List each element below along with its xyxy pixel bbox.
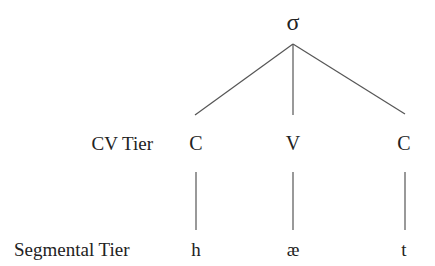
branch-to-c1: [195, 44, 293, 115]
segment-ae: æ: [287, 239, 300, 260]
syllable-node-sigma: σ: [287, 9, 300, 35]
syllable-structure-diagram: σ CV Tier C V C Segmental Tier h æ t: [0, 0, 435, 266]
cv-node-c1: C: [189, 132, 202, 154]
association-lines: [196, 172, 405, 230]
syllable-branches: [195, 44, 405, 115]
cv-node-c2: C: [397, 132, 410, 154]
branch-to-c2: [293, 44, 405, 114]
cv-node-v: V: [286, 132, 301, 154]
segment-t: t: [401, 239, 407, 260]
segmental-tier-label: Segmental Tier: [14, 239, 130, 260]
cv-tier-label: CV Tier: [92, 133, 154, 154]
segment-h: h: [191, 239, 201, 260]
